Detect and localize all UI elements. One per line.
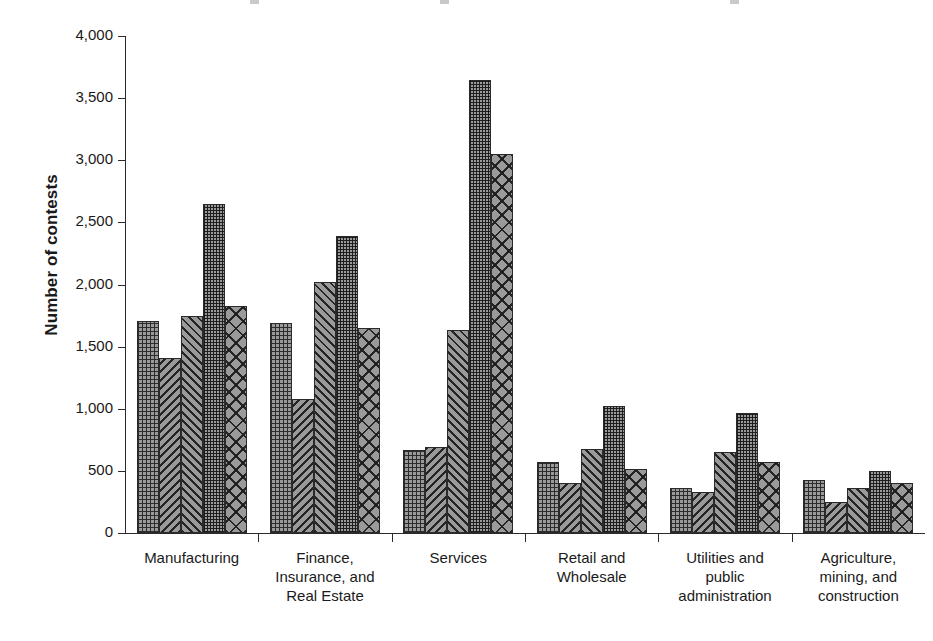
y-axis-line xyxy=(125,36,126,533)
x-axis-category-label-line: public xyxy=(658,567,791,586)
y-axis-tick-label: 4,000 xyxy=(75,26,113,43)
x-axis-category-label: Services xyxy=(392,548,525,567)
bar xyxy=(225,306,247,533)
bar xyxy=(181,316,203,533)
x-axis-tick xyxy=(525,534,526,542)
bar xyxy=(714,452,736,533)
x-axis-category-label: Manufacturing xyxy=(125,548,258,567)
bar xyxy=(159,358,181,533)
bar xyxy=(603,406,625,533)
bar xyxy=(891,483,913,533)
y-axis-tick: 2,000 xyxy=(118,285,125,286)
x-axis-category-label-line: Manufacturing xyxy=(125,548,258,567)
y-axis-tick-label: 2,500 xyxy=(75,212,113,229)
bar xyxy=(336,236,358,533)
y-axis-tick-label: 1,500 xyxy=(75,337,113,354)
x-axis-category-label: Utilities andpublicadministration xyxy=(658,548,791,605)
x-axis-category-label-line: Wholesale xyxy=(525,567,658,586)
bar xyxy=(692,492,714,533)
bar xyxy=(803,480,825,533)
bar-group xyxy=(137,36,247,533)
bar xyxy=(625,469,647,533)
bar xyxy=(847,488,869,533)
bar xyxy=(292,399,314,533)
bar xyxy=(491,154,513,533)
bar xyxy=(758,462,780,533)
x-axis-tick xyxy=(792,534,793,542)
y-axis-tick: 2,500 xyxy=(118,222,125,223)
bar-group xyxy=(803,36,913,533)
y-axis-tick: 1,000 xyxy=(118,409,125,410)
y-axis-tick-label: 1,000 xyxy=(75,399,113,416)
y-axis-tick: 500 xyxy=(118,471,125,472)
x-axis-category-label-line: Retail and xyxy=(525,548,658,567)
y-axis-tick-label: 0 xyxy=(105,523,113,540)
bar-group xyxy=(270,36,380,533)
y-axis-tick: 0 xyxy=(118,533,125,534)
bar-group xyxy=(670,36,780,533)
scan-artifact xyxy=(0,0,933,6)
y-axis-title: Number of contests xyxy=(42,125,62,385)
bar xyxy=(403,450,425,533)
scan-artifact-mark xyxy=(250,0,259,4)
x-axis-category-label-line: Finance, xyxy=(258,548,391,567)
x-axis-tick xyxy=(658,534,659,542)
bar xyxy=(581,449,603,533)
scan-artifact-mark xyxy=(440,0,449,4)
x-axis-category-label: Finance,Insurance, andReal Estate xyxy=(258,548,391,605)
y-axis-tick: 3,500 xyxy=(118,98,125,99)
scan-artifact-mark xyxy=(730,0,739,4)
bar xyxy=(137,321,159,533)
y-axis-tick-label: 3,500 xyxy=(75,88,113,105)
bar xyxy=(314,282,336,533)
bar-chart: Number of contests 4,0003,5003,0002,5002… xyxy=(0,0,933,641)
y-axis-tick-label: 500 xyxy=(88,461,113,478)
bar xyxy=(869,471,891,533)
x-axis-category-label-line: Real Estate xyxy=(258,586,391,605)
x-axis-category-label: Agriculture,mining, andconstruction xyxy=(792,548,925,605)
y-axis-tick: 1,500 xyxy=(118,347,125,348)
x-axis-category-label-line: administration xyxy=(658,586,791,605)
x-axis-category-label-line: Agriculture, xyxy=(792,548,925,567)
bar-group xyxy=(537,36,647,533)
x-axis-category-label-line: Services xyxy=(392,548,525,567)
bar xyxy=(559,483,581,533)
y-axis-tick: 3,000 xyxy=(118,160,125,161)
bar xyxy=(358,328,380,533)
plot-area: 4,0003,5003,0002,5002,0001,5001,0005000 xyxy=(125,36,925,533)
y-axis-tick-label: 3,000 xyxy=(75,150,113,167)
bar xyxy=(825,502,847,533)
x-axis-category-label-line: Insurance, and xyxy=(258,567,391,586)
bar xyxy=(447,330,469,533)
y-axis-tick-label: 2,000 xyxy=(75,275,113,292)
bar xyxy=(469,80,491,534)
x-axis-category-label: Retail andWholesale xyxy=(525,548,658,586)
y-axis-tick: 4,000 xyxy=(118,36,125,37)
bar xyxy=(736,413,758,533)
x-axis-category-label-line: construction xyxy=(792,586,925,605)
bar xyxy=(670,488,692,533)
bar xyxy=(203,204,225,533)
x-axis-tick xyxy=(392,534,393,542)
bar xyxy=(425,447,447,533)
x-axis-category-label-line: Utilities and xyxy=(658,548,791,567)
bar-group xyxy=(403,36,513,533)
bar xyxy=(537,462,559,533)
x-axis-category-label-line: mining, and xyxy=(792,567,925,586)
bar xyxy=(270,323,292,533)
x-axis-tick xyxy=(258,534,259,542)
